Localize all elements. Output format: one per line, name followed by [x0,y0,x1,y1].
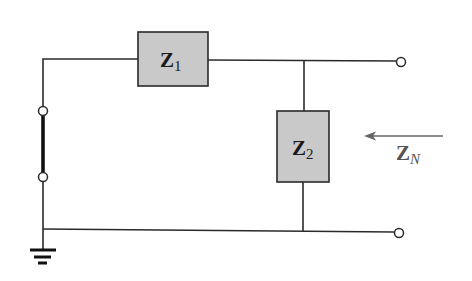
zn-arrow-icon [364,132,443,141]
circuit-diagram: Z1 Z2 ZN [0,0,472,281]
ground-icon [30,250,56,263]
left-top-terminal [39,107,48,116]
left-bottom-terminal [39,173,48,182]
top-left-wire [43,59,138,106]
right-top-terminal [397,58,406,67]
bottom-wire [43,229,394,232]
right-bottom-terminal [395,229,404,238]
left-port [39,107,48,250]
zn-label: ZN [396,141,421,167]
z2-impedance: Z2 [277,111,329,182]
z1-impedance: Z1 [138,32,208,86]
top-right-wire [208,60,396,61]
